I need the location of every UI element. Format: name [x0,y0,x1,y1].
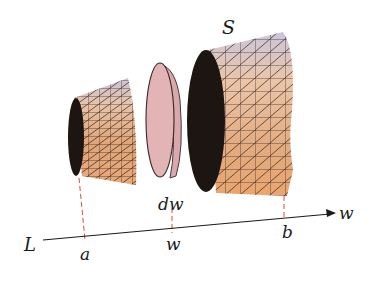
slice-label-dw: dw [158,196,183,213]
solid-of-revolution-diagram: S dw w L a w b [0,0,373,282]
diagram-canvas [0,0,373,282]
axis-label-L: L [24,236,36,254]
tick-label-w: w [166,236,181,253]
solid-label-S: S [222,18,235,37]
axis-direction-label-w: w [339,205,354,222]
tick-label-b: b [282,224,293,241]
arrowhead-icon [326,209,336,217]
right-solid-segment [187,32,293,196]
tick-label-a: a [80,246,90,263]
left-solid-segment [68,78,136,185]
projection-line-a [79,178,85,240]
disk-slice [146,63,181,178]
